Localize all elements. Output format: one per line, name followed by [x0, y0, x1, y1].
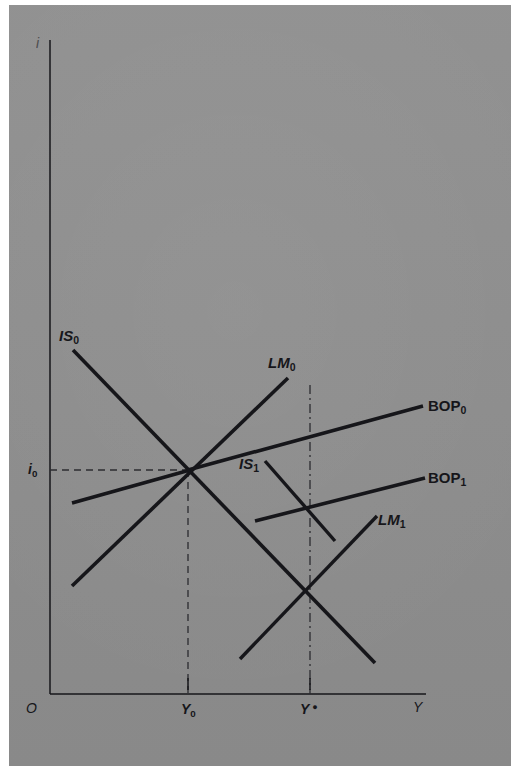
x-tick-yfull-base: Y [300, 701, 309, 717]
curve-label-lm0-subscript: 0 [290, 361, 296, 373]
x-tick-y0-base: Y [181, 701, 190, 717]
x-tick-y0-subscript: 0 [190, 708, 195, 719]
curve-lm1 [240, 516, 377, 659]
curve-label-is0: IS0 [59, 328, 79, 346]
curve-label-bop0: BOP0 [428, 398, 466, 416]
curve-label-lm1: LM1 [378, 512, 406, 530]
x-tick-yfull-star-marker: ● [312, 702, 317, 712]
diagram-canvas [0, 0, 518, 783]
curve-label-bop1: BOP1 [428, 470, 466, 488]
x-tick-y-full-employment: Y● [300, 702, 318, 716]
x-axis-label: Y [413, 700, 422, 714]
y-tick-i0: i0 [28, 462, 37, 479]
figure-page: i Y O i0 Y0 Y● IS0 LM0 BOP0 IS1 BOP1 LM1 [0, 0, 518, 783]
curve-label-lm1-subscript: 1 [400, 518, 406, 530]
y-axis-label: i [36, 36, 39, 50]
x-tick-y0: Y0 [181, 702, 196, 719]
curve-label-lm1-base: LM [378, 511, 400, 528]
curve-label-is1-subscript: 1 [253, 462, 259, 474]
curve-label-bop0-subscript: 0 [461, 404, 467, 416]
y-tick-i0-subscript: 0 [32, 468, 37, 479]
curve-label-is1-base: IS [239, 455, 253, 472]
curve-label-bop1-subscript: 1 [461, 476, 467, 488]
origin-label: O [26, 701, 37, 715]
curve-label-is1: IS1 [239, 456, 259, 474]
curve-is0 [73, 350, 375, 663]
curve-label-bop0-base: BOP [428, 397, 461, 414]
curve-bop1-left [72, 470, 190, 503]
curve-is1 [265, 461, 335, 541]
curve-lm0 [72, 378, 288, 586]
curve-label-lm0-base: LM [268, 354, 290, 371]
curve-label-is0-subscript: 0 [73, 334, 79, 346]
curve-label-lm0: LM0 [268, 355, 296, 373]
curve-label-bop1-base: BOP [428, 469, 461, 486]
curve-label-is0-base: IS [59, 327, 73, 344]
